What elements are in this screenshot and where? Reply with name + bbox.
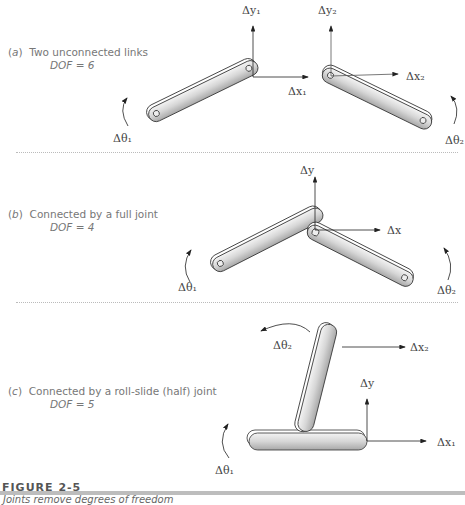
label-dtheta2-c: Δθ₂ bbox=[273, 339, 292, 352]
label-dy1: Δy₁ bbox=[242, 4, 261, 17]
label-dx2: Δx₂ bbox=[406, 70, 425, 83]
label-dtheta1-c: Δθ₁ bbox=[215, 464, 234, 477]
panel-c-base-link bbox=[247, 430, 367, 450]
figure-caption: Joints remove degrees of freedom bbox=[3, 494, 173, 505]
panel-a-link-1 bbox=[144, 55, 261, 124]
label-dy2: Δy₂ bbox=[318, 4, 337, 17]
label-dx-b: Δx bbox=[387, 224, 402, 237]
label-dtheta2-b: Δθ₂ bbox=[437, 284, 456, 297]
panel-c-rocker-link bbox=[293, 321, 339, 434]
label-dy-b: Δy bbox=[300, 164, 315, 177]
label-dx2-c: Δx₂ bbox=[410, 341, 429, 354]
label-dx1: Δx₁ bbox=[288, 85, 307, 98]
label-dtheta1-a: Δθ₁ bbox=[113, 132, 132, 145]
panel-b-link-1 bbox=[208, 203, 326, 275]
label-dx1-c: Δx₁ bbox=[437, 436, 456, 449]
label-dy-c: Δy bbox=[360, 377, 375, 390]
label-dtheta1-b: Δθ₁ bbox=[178, 281, 197, 294]
label-dtheta2-a: Δθ₂ bbox=[445, 134, 464, 147]
